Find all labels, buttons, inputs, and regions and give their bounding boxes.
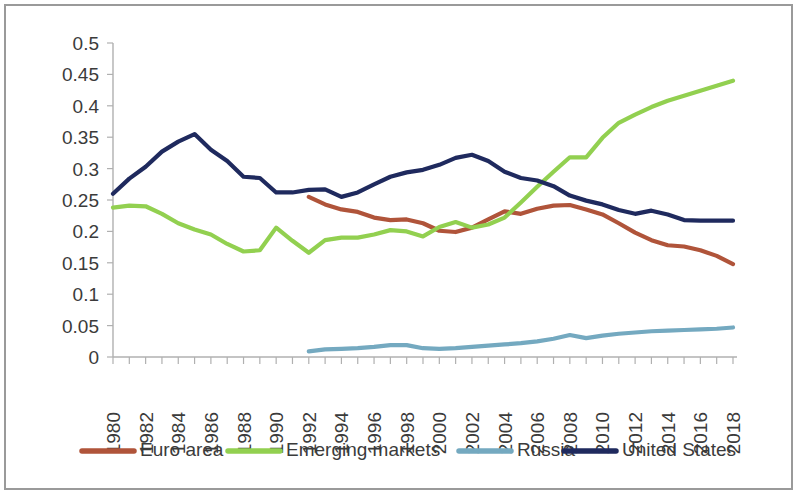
x-tick-label: 2010 (592, 412, 613, 454)
series-line-emerging-markets (113, 81, 733, 253)
y-tick-label: 0.1 (73, 284, 99, 305)
line-chart: 00.050.10.150.20.250.30.350.40.450.5 198… (0, 0, 801, 498)
series-line-russia (309, 327, 733, 351)
chart-figure: 00.050.10.150.20.250.30.350.40.450.5 198… (0, 0, 801, 498)
legend-label-euro-area: Euro area (140, 439, 224, 460)
y-tick-label: 0.45 (62, 64, 99, 85)
series-lines (113, 81, 733, 352)
x-tick-label: 1990 (266, 412, 287, 454)
chart-legend: Euro areaEmerging marketsRussiaUnited St… (82, 439, 736, 460)
x-tick-label: 2002 (462, 412, 483, 454)
y-tick-label: 0 (88, 347, 99, 368)
x-tick-label: 2004 (495, 412, 516, 455)
y-tick-label: 0.35 (62, 127, 99, 148)
y-tick-label: 0.25 (62, 190, 99, 211)
legend-label-emerging-markets: Emerging markets (286, 439, 440, 460)
series-line-united-states (113, 134, 733, 221)
x-tick-label: 1988 (234, 412, 255, 454)
legend-label-united-states: United States (622, 439, 736, 460)
y-tick-label: 0.4 (73, 96, 100, 117)
series-line-euro-area (309, 197, 733, 264)
y-tick-label: 0.2 (73, 221, 99, 242)
y-tick-label: 0.15 (62, 253, 99, 274)
y-tick-label: 0.05 (62, 316, 99, 337)
x-tick-label: 1980 (103, 412, 124, 454)
y-axis: 00.050.10.150.20.250.30.350.40.450.5 (62, 33, 113, 368)
y-tick-label: 0.3 (73, 159, 99, 180)
y-tick-label: 0.5 (73, 33, 99, 54)
